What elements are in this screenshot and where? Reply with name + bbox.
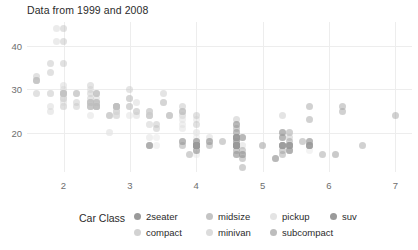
legend-item-suv[interactable]: suv bbox=[330, 210, 357, 223]
data-point bbox=[126, 112, 133, 119]
data-point bbox=[332, 151, 339, 158]
data-point bbox=[233, 151, 240, 158]
data-point bbox=[60, 60, 67, 67]
data-point bbox=[233, 121, 240, 128]
data-point bbox=[193, 112, 200, 119]
legend: Car Class 2seatercompactmidsizeminivanpi… bbox=[0, 200, 418, 246]
x-tick-label-2: 2 bbox=[61, 180, 66, 191]
data-point bbox=[126, 95, 133, 102]
data-point bbox=[272, 155, 279, 162]
x-tick-label-4: 4 bbox=[194, 180, 199, 191]
data-point bbox=[47, 108, 54, 115]
y-tick-label-40: 40 bbox=[4, 40, 22, 51]
legend-swatch-icon bbox=[270, 229, 277, 236]
legend-swatch-icon bbox=[206, 213, 213, 220]
data-point bbox=[47, 90, 54, 97]
data-point bbox=[60, 103, 67, 110]
legend-item-label: minivan bbox=[218, 227, 251, 238]
data-point bbox=[166, 112, 173, 119]
data-point bbox=[160, 99, 167, 106]
data-point bbox=[87, 82, 94, 89]
y-tick-label-20: 20 bbox=[4, 127, 22, 138]
legend-item-label: suv bbox=[342, 211, 357, 222]
data-point bbox=[47, 60, 54, 67]
chart-root: Data from 1999 and 2008 234567203040 Car… bbox=[0, 0, 418, 250]
legend-swatch-icon bbox=[134, 213, 141, 220]
legend-item-minivan[interactable]: minivan bbox=[206, 226, 251, 239]
legend-item-label: pickup bbox=[282, 211, 309, 222]
data-point bbox=[160, 90, 167, 97]
data-point bbox=[126, 86, 133, 93]
data-point bbox=[33, 90, 40, 97]
data-point bbox=[146, 112, 153, 119]
legend-item-label: compact bbox=[146, 227, 182, 238]
data-point bbox=[133, 108, 140, 115]
data-point bbox=[239, 147, 246, 154]
data-point bbox=[259, 142, 266, 149]
legend-swatch-icon bbox=[206, 229, 213, 236]
data-point bbox=[392, 112, 399, 119]
data-point bbox=[319, 151, 326, 158]
data-point bbox=[153, 125, 160, 132]
legend-swatch-icon bbox=[134, 229, 141, 236]
data-point bbox=[60, 38, 67, 45]
data-point bbox=[193, 121, 200, 128]
data-point bbox=[153, 142, 160, 149]
data-point bbox=[186, 151, 193, 158]
data-point bbox=[33, 77, 40, 84]
data-point bbox=[106, 112, 113, 119]
data-point bbox=[306, 138, 313, 145]
data-point bbox=[279, 134, 286, 141]
plot-panel bbox=[27, 22, 412, 172]
data-point bbox=[279, 112, 286, 119]
gridline-y-30 bbox=[27, 89, 412, 90]
x-tick-label-3: 3 bbox=[127, 180, 132, 191]
data-point bbox=[146, 142, 153, 149]
gridline-y-20 bbox=[27, 133, 412, 134]
legend-item-label: subcompact bbox=[282, 227, 333, 238]
legend-item-compact[interactable]: compact bbox=[134, 226, 182, 239]
gridline-x-7 bbox=[395, 22, 396, 172]
data-point bbox=[87, 112, 94, 119]
x-tick-label-6: 6 bbox=[326, 180, 331, 191]
data-point bbox=[239, 134, 246, 141]
data-point bbox=[73, 90, 80, 97]
data-point bbox=[306, 116, 313, 123]
x-tick-label-5: 5 bbox=[260, 180, 265, 191]
legend-swatch-icon bbox=[330, 213, 337, 220]
legend-title: Car Class bbox=[79, 212, 125, 224]
gridline-x-6 bbox=[329, 22, 330, 172]
data-point bbox=[339, 108, 346, 115]
data-point bbox=[233, 142, 240, 149]
legend-item-subcompact[interactable]: subcompact bbox=[270, 226, 333, 239]
data-point bbox=[47, 69, 54, 76]
gridline-y-40 bbox=[27, 46, 412, 47]
data-point bbox=[60, 25, 67, 32]
data-point bbox=[153, 134, 160, 141]
legend-item-midsize[interactable]: midsize bbox=[206, 210, 250, 223]
y-tick-label-30: 30 bbox=[4, 84, 22, 95]
data-point bbox=[239, 164, 246, 171]
chart-title: Data from 1999 and 2008 bbox=[27, 4, 148, 16]
data-point bbox=[179, 125, 186, 132]
data-point bbox=[133, 99, 140, 106]
data-point bbox=[359, 142, 366, 149]
gridline-x-5 bbox=[263, 22, 264, 172]
legend-item-pickup[interactable]: pickup bbox=[270, 210, 309, 223]
data-point bbox=[299, 138, 306, 145]
data-point bbox=[233, 134, 240, 141]
data-point bbox=[106, 129, 113, 136]
data-point bbox=[219, 138, 226, 145]
legend-item-2seater[interactable]: 2seater bbox=[134, 210, 178, 223]
legend-item-label: 2seater bbox=[146, 211, 178, 222]
data-point bbox=[306, 103, 313, 110]
legend-swatch-icon bbox=[270, 213, 277, 220]
x-tick-label-7: 7 bbox=[393, 180, 398, 191]
legend-item-label: midsize bbox=[218, 211, 250, 222]
